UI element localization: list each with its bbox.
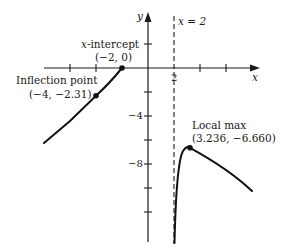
inflection-title: Inflection point (16, 74, 98, 86)
inflection-point (93, 93, 99, 99)
local-max-point (187, 145, 193, 151)
x-axis-label: x (252, 71, 258, 83)
asymptote-label: x = 2 (178, 15, 206, 27)
y-tick-label-neg8: −8 (128, 158, 143, 169)
y-axis-arrow-icon (145, 12, 152, 22)
x-intercept-point (119, 65, 125, 71)
local-max-coords: (3.236, −6.660) (192, 132, 276, 144)
x-intercept-coords: (−2, 0) (95, 51, 132, 63)
x-intercept-title: x-intercept (81, 38, 140, 50)
right-branch-curve (175, 147, 253, 243)
function-graph: y x x = 2 2 −4 −8 x-intercept (−2, 0) In… (0, 0, 284, 249)
y-axis-label: y (136, 10, 144, 22)
local-max-title: Local max (192, 119, 246, 131)
inflection-coords: (−4, −2.31) (29, 88, 92, 100)
x-tick-label-2: 2 (171, 72, 177, 83)
y-tick-label-neg4: −4 (128, 110, 143, 121)
